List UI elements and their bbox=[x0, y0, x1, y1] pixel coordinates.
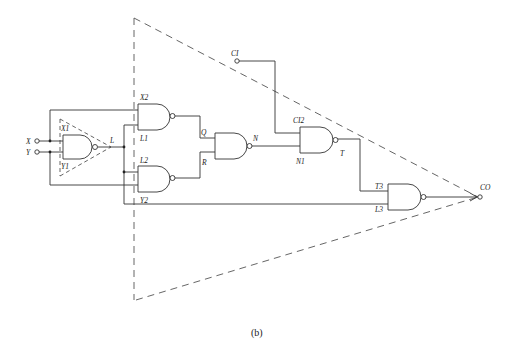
circuit-diagram: X Y CI CO X1 Y1 L X2 L1 L2 Y2 Q R N CI2 … bbox=[0, 0, 525, 346]
label-q: Q bbox=[201, 128, 207, 137]
label-ci: CI bbox=[231, 49, 239, 58]
input-port-ci bbox=[235, 59, 239, 63]
label-ci2: CI2 bbox=[293, 116, 305, 125]
nand-gate-n bbox=[215, 133, 252, 159]
output-port-co bbox=[478, 195, 482, 199]
label-x: X bbox=[25, 137, 31, 146]
nand-gate-l1 bbox=[138, 104, 175, 130]
dashed-triangle-large bbox=[134, 18, 478, 300]
label-n: N bbox=[252, 134, 259, 143]
nand-gate-l2 bbox=[138, 166, 175, 192]
label-l1: L1 bbox=[139, 134, 148, 143]
nand-gate-1 bbox=[63, 135, 98, 159]
label-t3: T3 bbox=[375, 182, 383, 191]
label-n1: N1 bbox=[295, 157, 305, 166]
label-x1: X1 bbox=[60, 124, 69, 133]
label-x2: X2 bbox=[139, 93, 149, 102]
label-y1: Y1 bbox=[61, 162, 69, 171]
label-l3: L3 bbox=[374, 205, 383, 214]
label-l2: L2 bbox=[139, 156, 148, 165]
label-co: CO bbox=[480, 183, 491, 192]
nand-gate-n1 bbox=[300, 127, 338, 153]
wires bbox=[39, 61, 478, 204]
label-y: Y bbox=[26, 148, 31, 157]
figure-caption: (b) bbox=[251, 327, 263, 339]
nand-gate-l3 bbox=[388, 184, 426, 210]
input-port-y bbox=[35, 150, 39, 154]
label-y2: Y2 bbox=[140, 196, 148, 205]
label-l: L bbox=[109, 136, 114, 145]
input-port-x bbox=[35, 139, 39, 143]
label-t: T bbox=[340, 149, 345, 158]
label-r: R bbox=[201, 158, 207, 167]
